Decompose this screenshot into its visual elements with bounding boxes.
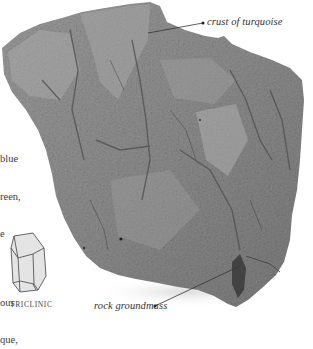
text-line [0, 266, 21, 272]
text-line: reen, [0, 191, 21, 204]
crystal-system-caption: TRICLINIC [10, 300, 52, 309]
text-line: e [0, 228, 21, 241]
text-line: blue [0, 153, 21, 166]
description-text-fragment: blue reen, e ous que, [0, 128, 21, 349]
text-line: que, [0, 334, 21, 347]
crust-of-turquoise-label: crust of turquoise [207, 16, 283, 27]
rock-groundmass-label: rock groundmass [94, 300, 167, 311]
